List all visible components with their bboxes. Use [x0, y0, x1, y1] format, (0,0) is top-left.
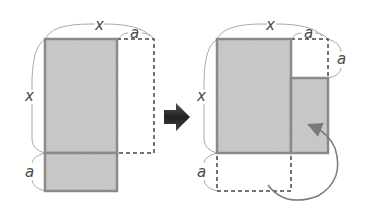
- label-top-x: x: [94, 16, 104, 34]
- label-left-a: a: [197, 163, 206, 181]
- dashed-top-right-square: [291, 39, 328, 78]
- main-rectangle: [217, 39, 291, 153]
- label-left-x: x: [24, 87, 34, 105]
- main-rectangle: [45, 39, 117, 153]
- bottom-strip: [45, 153, 117, 191]
- right-figure: x a a x a: [196, 16, 346, 200]
- dashed-extension: [117, 39, 154, 153]
- label-left-x: x: [196, 87, 206, 105]
- bracket-left-x: [32, 40, 45, 153]
- left-figure: x a x a: [24, 16, 154, 191]
- transform-arrow-icon: [164, 103, 190, 131]
- label-right-a: a: [337, 50, 346, 68]
- dashed-bottom-strip: [217, 153, 291, 191]
- moved-strip: [291, 78, 328, 153]
- label-top-a: a: [130, 24, 139, 42]
- label-top-a: a: [304, 24, 313, 42]
- label-top-x: x: [265, 16, 275, 34]
- label-left-a: a: [25, 163, 34, 181]
- diagram-canvas: x a x a x a a x a: [0, 0, 371, 219]
- bracket-left-x: [204, 40, 217, 153]
